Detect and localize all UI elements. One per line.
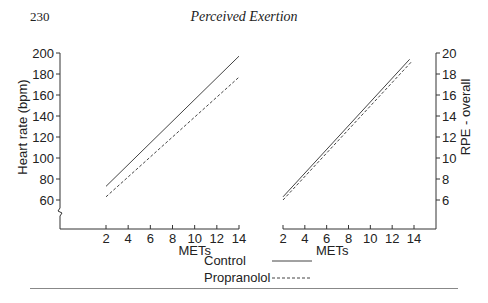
bottom-rule <box>30 288 458 289</box>
y-tick-label: 8 <box>442 172 449 187</box>
y-tick-label: 14 <box>442 109 456 124</box>
y-tick-label: 180 <box>32 67 54 82</box>
legend-label: Propranolol <box>204 270 271 285</box>
y-tick-label: 200 <box>32 46 54 61</box>
y-tick-label: 16 <box>442 88 456 103</box>
y-tick-label: 80 <box>40 172 54 187</box>
x-axis-title: METs <box>316 243 349 258</box>
y-axis-title: RPE - overall <box>458 79 473 156</box>
series-line-control <box>106 56 239 186</box>
x-tick-label: 8 <box>169 231 176 246</box>
x-tick-label: 12 <box>210 231 224 246</box>
legend-label: Control <box>204 253 246 268</box>
x-tick-label: 12 <box>385 231 399 246</box>
y-tick-label: 120 <box>32 130 54 145</box>
x-tick-label: 14 <box>407 231 421 246</box>
axis-break-icon <box>58 208 62 216</box>
x-tick-label: 4 <box>301 231 308 246</box>
series-line-propranolol <box>106 77 239 197</box>
x-tick-label: 2 <box>102 231 109 246</box>
y-tick-label: 10 <box>442 151 456 166</box>
x-tick-label: 10 <box>363 231 377 246</box>
series-line-propranolol <box>283 61 412 200</box>
x-tick-label: 2 <box>279 231 286 246</box>
y-tick-label: 20 <box>442 46 456 61</box>
x-tick-label: 14 <box>232 231 246 246</box>
x-tick-label: 6 <box>147 231 154 246</box>
y-tick-label: 6 <box>442 193 449 208</box>
x-tick-label: 4 <box>125 231 132 246</box>
y-tick-label: 100 <box>32 151 54 166</box>
y-tick-label: 160 <box>32 88 54 103</box>
figure-charts: 6080100120140160180200Heart rate (bpm)24… <box>0 0 488 303</box>
y-tick-label: 18 <box>442 67 456 82</box>
y-axis-title: Heart rate (bpm) <box>15 79 30 174</box>
y-tick-label: 140 <box>32 109 54 124</box>
y-tick-label: 12 <box>442 130 456 145</box>
y-tick-label: 60 <box>40 193 54 208</box>
series-line-control <box>283 59 410 197</box>
